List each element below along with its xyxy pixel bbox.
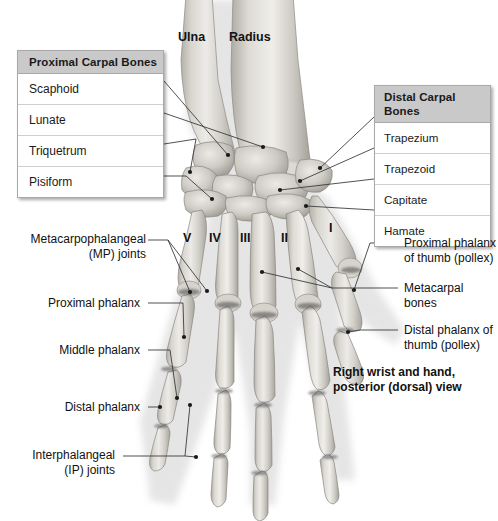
distal-carpal-table-header: Distal Carpal Bones [375, 86, 490, 123]
table-row-lunate[interactable]: Lunate [18, 105, 163, 136]
table-row-trapezium[interactable]: Trapezium [375, 123, 490, 154]
distal-carpal-bones-table: Distal Carpal Bones Trapezium Trapezoid … [374, 85, 491, 247]
callout-distal-phalanx: Distal phalanx [0, 400, 140, 415]
digit-numeral-iii: III [240, 231, 250, 245]
proximal-carpal-table-header: Proximal Carpal Bones [18, 51, 163, 74]
table-row-triquetrum[interactable]: Triquetrum [18, 136, 163, 167]
callout-mp-joints-line1: Metacarpophalangeal [0, 232, 146, 247]
callout-ip-joints-line1: Interphalangeal [0, 448, 115, 463]
callout-distal-phalanx-thumb: Distal phalanx of thumb (pollex) [404, 323, 493, 352]
figure-caption: Right wrist and hand, posterior (dorsal)… [333, 365, 462, 395]
callout-metacarpal-bones: Metacarpal bones [404, 281, 463, 310]
table-row-scaphoid[interactable]: Scaphoid [18, 74, 163, 105]
ulna-label: Ulna [178, 30, 205, 44]
figure-canvas: Ulna Radius Proximal Carpal Bones Scapho… [0, 0, 498, 521]
callout-proximal-phalanx-thumb-line1: Proximal phalanx [404, 236, 496, 251]
callout-middle-phalanx: Middle phalanx [0, 343, 140, 358]
table-row-pisiform[interactable]: Pisiform [18, 167, 163, 197]
proximal-carpal-bones-table: Proximal Carpal Bones Scaphoid Lunate Tr… [17, 50, 164, 198]
callout-mp-joints-line2: (MP) joints [0, 247, 146, 262]
radius-label: Radius [229, 30, 271, 44]
table-row-capitate[interactable]: Capitate [375, 185, 490, 216]
callout-ip-joints: Interphalangeal (IP) joints [0, 448, 115, 477]
digit-numeral-i: I [329, 221, 332, 235]
callout-proximal-phalanx-thumb-line2: of thumb (pollex) [404, 251, 496, 266]
digit-numeral-ii: II [281, 231, 288, 245]
callout-metacarpal-bones-line2: bones [404, 296, 463, 311]
callout-proximal-phalanx: Proximal phalanx [0, 296, 140, 311]
digit-numeral-v: V [183, 231, 191, 245]
callout-metacarpal-bones-line1: Metacarpal [404, 281, 463, 296]
callout-ip-joints-line2: (IP) joints [0, 463, 115, 478]
figure-caption-line1: Right wrist and hand, [333, 365, 462, 380]
callout-mp-joints: Metacarpophalangeal (MP) joints [0, 232, 146, 261]
callout-proximal-phalanx-thumb: Proximal phalanx of thumb (pollex) [404, 236, 496, 265]
digit-numeral-iv: IV [209, 231, 221, 245]
callout-distal-phalanx-thumb-line2: thumb (pollex) [404, 338, 493, 353]
figure-caption-line2: posterior (dorsal) view [333, 380, 462, 395]
callout-distal-phalanx-thumb-line1: Distal phalanx of [404, 323, 493, 338]
table-row-trapezoid[interactable]: Trapezoid [375, 154, 490, 185]
